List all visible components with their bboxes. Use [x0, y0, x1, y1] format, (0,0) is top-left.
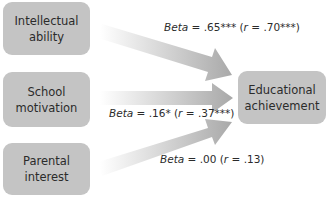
r-value: = .13)	[228, 153, 264, 165]
r-value: = .70***)	[248, 21, 300, 33]
predictor-intellectual-ability: Intellectualability	[3, 2, 90, 55]
box-label-line1: School	[16, 84, 78, 100]
box-label-line2: motivation	[16, 100, 78, 116]
beta-value: = .65*** (	[188, 21, 243, 33]
box-label-line2: achievement	[245, 98, 320, 114]
beta-symbol: Beta	[109, 107, 133, 119]
box-label-line1: Intellectual	[14, 13, 78, 29]
beta-value: = .00 (	[184, 153, 224, 165]
path-label-parental: Beta = .00 (r = .13)	[160, 153, 264, 165]
arrow-parental-to-achievement	[98, 119, 232, 176]
box-label-line1: Parental	[23, 153, 70, 169]
box-label-line2: ability	[14, 29, 78, 45]
beta-symbol: Beta	[164, 21, 188, 33]
outcome-educational-achievement: Educationalachievement	[238, 71, 326, 124]
path-label-intellectual: Beta = .65*** (r = .70***)	[164, 21, 300, 33]
beta-symbol: Beta	[160, 153, 184, 165]
box-label-line1: Educational	[245, 82, 320, 98]
beta-value: = .16* (	[133, 107, 178, 119]
box-label-line2: interest	[23, 169, 70, 185]
predictor-school-motivation: Schoolmotivation	[3, 72, 90, 127]
predictor-parental-interest: Parentalinterest	[3, 143, 90, 195]
r-value: = .37***)	[182, 107, 234, 119]
path-label-motivation: Beta = .16* (r = .37***)	[109, 107, 234, 119]
